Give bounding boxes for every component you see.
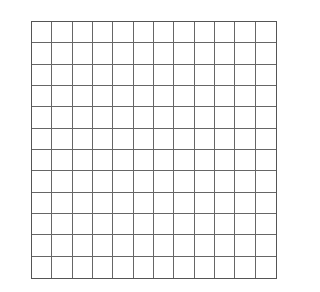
- grid-cell: [256, 171, 276, 192]
- grid-cell: [93, 257, 113, 278]
- grid-cell: [215, 107, 235, 128]
- grid-cell: [195, 129, 215, 150]
- grid-cell: [215, 257, 235, 278]
- grid-cell: [113, 171, 133, 192]
- grid-cell: [32, 171, 52, 192]
- grid-cell: [93, 107, 113, 128]
- grid-cell: [174, 43, 194, 64]
- grid-cell: [32, 65, 52, 86]
- grid-cell: [32, 193, 52, 214]
- grid-cell: [113, 193, 133, 214]
- grid-cell: [256, 129, 276, 150]
- grid-cell: [93, 150, 113, 171]
- grid-cell: [154, 257, 174, 278]
- grid-cell: [195, 107, 215, 128]
- grid-cell: [256, 86, 276, 107]
- grid-cell: [113, 65, 133, 86]
- grid-cell: [52, 171, 72, 192]
- grid-cell: [32, 22, 52, 43]
- grid-cell: [113, 150, 133, 171]
- grid-cell: [52, 235, 72, 256]
- grid-cell: [195, 193, 215, 214]
- grid-cell: [154, 150, 174, 171]
- grid-cell: [174, 257, 194, 278]
- grid-cell: [195, 43, 215, 64]
- grid-cell: [235, 235, 255, 256]
- grid-cell: [93, 235, 113, 256]
- grid-cell: [134, 171, 154, 192]
- grid-cell: [93, 129, 113, 150]
- grid-cell: [134, 43, 154, 64]
- grid-cell: [52, 43, 72, 64]
- grid-cell: [256, 193, 276, 214]
- grid-cell: [32, 257, 52, 278]
- grid-cell: [32, 235, 52, 256]
- grid-cell: [134, 129, 154, 150]
- grid-cell: [32, 150, 52, 171]
- grid-cell: [134, 65, 154, 86]
- grid-cell: [154, 86, 174, 107]
- grid-cell: [134, 22, 154, 43]
- grid-cell: [73, 43, 93, 64]
- grid-cell: [93, 22, 113, 43]
- grid-cell: [195, 257, 215, 278]
- grid-cell: [235, 65, 255, 86]
- grid-cell: [93, 171, 113, 192]
- grid-cell: [134, 150, 154, 171]
- grid-cell: [256, 214, 276, 235]
- grid-cell: [134, 235, 154, 256]
- grid-cell: [235, 86, 255, 107]
- grid-cell: [73, 235, 93, 256]
- grid-cell: [174, 86, 194, 107]
- grid-cell: [256, 107, 276, 128]
- grid-cell: [32, 43, 52, 64]
- grid-cell: [134, 214, 154, 235]
- grid-cell: [154, 65, 174, 86]
- grid-cell: [73, 150, 93, 171]
- grid-cell: [52, 150, 72, 171]
- grid-cell: [174, 107, 194, 128]
- grid-cell: [215, 235, 235, 256]
- grid-cell: [235, 107, 255, 128]
- grid-cell: [73, 22, 93, 43]
- grid-cell: [235, 129, 255, 150]
- grid-cell: [256, 43, 276, 64]
- grid-cell: [52, 257, 72, 278]
- grid-cell: [215, 43, 235, 64]
- grid-cell: [73, 65, 93, 86]
- grid-cell: [215, 65, 235, 86]
- grid-cell: [174, 150, 194, 171]
- grid-cell: [154, 43, 174, 64]
- grid-cell: [113, 214, 133, 235]
- grid-cell: [174, 129, 194, 150]
- grid-cell: [195, 22, 215, 43]
- grid-cell: [235, 171, 255, 192]
- grid-cell: [235, 150, 255, 171]
- grid-cell: [174, 65, 194, 86]
- grid-cell: [73, 86, 93, 107]
- grid-cell: [215, 150, 235, 171]
- grid-cell: [32, 214, 52, 235]
- grid-cell: [134, 257, 154, 278]
- grid-cell: [195, 235, 215, 256]
- grid-cell: [174, 235, 194, 256]
- grid-cell: [113, 43, 133, 64]
- grid-cell: [52, 107, 72, 128]
- grid-cell: [52, 214, 72, 235]
- grid-cell: [73, 214, 93, 235]
- grid-cell: [174, 214, 194, 235]
- grid-cell: [215, 129, 235, 150]
- grid-cell: [154, 129, 174, 150]
- grid-cell: [73, 193, 93, 214]
- grid-cell: [154, 171, 174, 192]
- grid-cell: [113, 129, 133, 150]
- grid-cell: [113, 86, 133, 107]
- grid-cell: [93, 214, 113, 235]
- grid-cell: [73, 257, 93, 278]
- grid-cell: [154, 193, 174, 214]
- grid-cell: [215, 86, 235, 107]
- grid-cell: [174, 22, 194, 43]
- grid-cell: [154, 22, 174, 43]
- grid-cell: [215, 171, 235, 192]
- grid-cell: [73, 129, 93, 150]
